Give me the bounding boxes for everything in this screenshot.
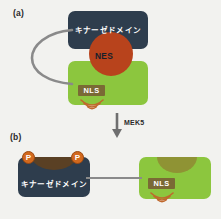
phospho-circle-right: P [71, 151, 84, 164]
kinase-domain-label-b: キナーゼドメイン [18, 178, 90, 189]
connector-line-b [86, 177, 142, 179]
cargo-dome-b [157, 157, 197, 173]
radiating-arcs-icon-a [79, 99, 105, 112]
kinase-domain-label-a: キナーゼドメイン [68, 24, 148, 35]
figure-diagram: (a) キナーゼドメイン NES NLS MEK5 (b) キナーゼドメイン P… [0, 0, 221, 219]
kinase-notch-b [31, 157, 77, 170]
panel-label-b: (b) [10, 132, 21, 142]
nes-label: NES [95, 51, 113, 61]
phospho-circle-left: P [22, 151, 35, 164]
nls-tag-a: NLS [78, 85, 105, 96]
down-arrow-icon [111, 113, 123, 139]
panel-label-a: (a) [13, 8, 24, 18]
radiating-arcs-icon-b [149, 192, 175, 205]
mek5-label: MEK5 [124, 119, 144, 126]
nls-tag-b: NLS [148, 178, 175, 189]
tether-curve [28, 26, 76, 88]
